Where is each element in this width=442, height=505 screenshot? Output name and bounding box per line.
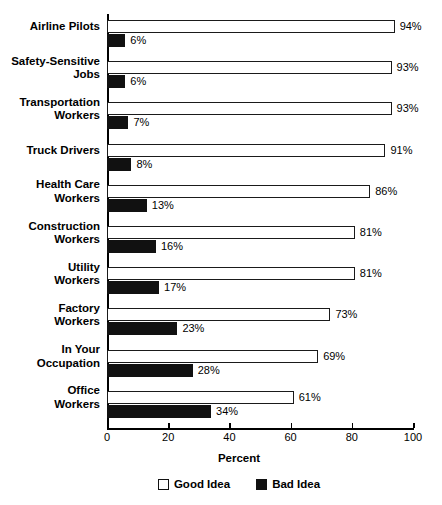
good-idea-value: 81%: [360, 267, 382, 280]
bad-idea-value: 6%: [130, 34, 146, 47]
good-idea-value: 73%: [335, 308, 357, 321]
bad-idea-value: 17%: [164, 281, 186, 294]
legend-item-good: Good Idea: [158, 478, 230, 490]
category-label-line: Health Care: [0, 178, 100, 192]
x-axis-title: Percent: [0, 452, 442, 464]
category-label-6: UtilityWorkers: [0, 261, 100, 288]
good-idea-value: 69%: [323, 350, 345, 363]
category-label-line: Occupation: [0, 357, 100, 371]
category-label-2: TransportationWorkers: [0, 96, 100, 123]
category-label-0: Airline Pilots: [0, 20, 100, 34]
category-label-line: Workers: [0, 192, 100, 206]
category-label-line: Airline Pilots: [0, 20, 100, 34]
bad-idea-bar: [107, 322, 177, 335]
bad-idea-bar: [107, 75, 125, 88]
category-label-4: Health CareWorkers: [0, 178, 100, 205]
good-idea-bar: [107, 20, 395, 33]
category-label-5: ConstructionWorkers: [0, 220, 100, 247]
bad-idea-bar: [107, 158, 131, 171]
category-label-line: Office: [0, 384, 100, 398]
chart-row: 61%34%: [107, 385, 413, 426]
bad-idea-value: 34%: [216, 405, 238, 418]
good-idea-bar: [107, 61, 392, 74]
good-idea-value: 93%: [397, 61, 419, 74]
bad-idea-bar: [107, 116, 128, 129]
category-label-line: Transportation: [0, 96, 100, 110]
x-tick-label-100: 100: [393, 431, 433, 444]
chart-row: 93%6%: [107, 55, 413, 96]
bad-idea-bar: [107, 405, 211, 418]
chart-legend: Good IdeaBad Idea: [0, 478, 442, 490]
bad-idea-bar: [107, 199, 147, 212]
chart-row: 73%23%: [107, 302, 413, 343]
bad-idea-value: 28%: [198, 364, 220, 377]
category-label-8: In YourOccupation: [0, 343, 100, 370]
x-axis-title-text: Percent: [218, 452, 260, 464]
bad-idea-value: 16%: [161, 240, 183, 253]
x-tick-label-40: 40: [209, 431, 249, 444]
bad-idea-bar: [107, 281, 159, 294]
chart-row: 81%16%: [107, 220, 413, 261]
bad-idea-value: 13%: [152, 199, 174, 212]
category-label-line: Construction: [0, 220, 100, 234]
good-idea-value: 61%: [299, 391, 321, 404]
category-label-line: Factory: [0, 302, 100, 316]
horizontal-bar-chart: 020406080100 Airline PilotsSafety-Sensit…: [0, 0, 442, 505]
chart-row: 81%17%: [107, 261, 413, 302]
category-label-line: Workers: [0, 398, 100, 412]
good-idea-bar: [107, 102, 392, 115]
legend-label: Good Idea: [174, 478, 230, 490]
category-label-7: FactoryWorkers: [0, 302, 100, 329]
category-label-line: Safety-Sensitive: [0, 55, 100, 69]
good-idea-bar: [107, 391, 294, 404]
good-idea-bar: [107, 350, 318, 363]
good-idea-bar: [107, 308, 330, 321]
x-tick-100: [413, 423, 415, 428]
good-idea-value: 94%: [400, 20, 422, 33]
x-tick-label-0: 0: [87, 431, 127, 444]
plot-area: 94%6%93%6%93%7%91%8%86%13%81%16%81%17%73…: [107, 14, 413, 426]
category-label-line: Truck Drivers: [0, 144, 100, 158]
category-label-1: Safety-SensitiveJobs: [0, 55, 100, 82]
category-label-line: In Your: [0, 343, 100, 357]
category-label-line: Utility: [0, 261, 100, 275]
legend-swatch-bad: [256, 479, 267, 490]
good-idea-value: 86%: [375, 185, 397, 198]
legend-swatch-good: [158, 479, 169, 490]
good-idea-bar: [107, 185, 370, 198]
bad-idea-bar: [107, 34, 125, 47]
good-idea-bar: [107, 267, 355, 280]
category-label-line: Workers: [0, 109, 100, 123]
good-idea-bar: [107, 226, 355, 239]
legend-item-bad: Bad Idea: [256, 478, 320, 490]
chart-row: 69%28%: [107, 344, 413, 385]
chart-row: 86%13%: [107, 179, 413, 220]
x-tick-label-80: 80: [332, 431, 372, 444]
category-label-line: Jobs: [0, 68, 100, 82]
chart-row: 93%7%: [107, 96, 413, 137]
chart-row: 94%6%: [107, 14, 413, 55]
bad-idea-bar: [107, 240, 156, 253]
category-label-line: Workers: [0, 315, 100, 329]
bad-idea-value: 6%: [130, 75, 146, 88]
category-label-9: OfficeWorkers: [0, 384, 100, 411]
legend-label: Bad Idea: [272, 478, 320, 490]
x-axis-line: [107, 428, 414, 430]
good-idea-value: 81%: [360, 226, 382, 239]
category-label-3: Truck Drivers: [0, 144, 100, 158]
good-idea-bar: [107, 144, 385, 157]
good-idea-value: 93%: [397, 102, 419, 115]
bad-idea-value: 8%: [136, 158, 152, 171]
good-idea-value: 91%: [390, 144, 412, 157]
bad-idea-value: 23%: [182, 322, 204, 335]
x-tick-label-60: 60: [271, 431, 311, 444]
chart-row: 91%8%: [107, 138, 413, 179]
bad-idea-bar: [107, 364, 193, 377]
x-tick-label-20: 20: [148, 431, 188, 444]
bad-idea-value: 7%: [133, 116, 149, 129]
category-label-line: Workers: [0, 233, 100, 247]
category-label-line: Workers: [0, 274, 100, 288]
